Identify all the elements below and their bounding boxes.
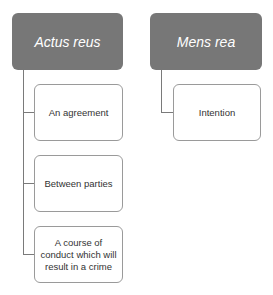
connector-an-agreement bbox=[23, 112, 34, 113]
node-course-of-conduct: A course of conduct which will result in… bbox=[34, 226, 123, 283]
node-an-agreement: An agreement bbox=[34, 84, 123, 141]
node-between-parties-label: Between parties bbox=[44, 178, 112, 190]
node-an-agreement-label: An agreement bbox=[49, 107, 109, 119]
node-intention-label: Intention bbox=[199, 107, 235, 119]
connector-between-parties bbox=[23, 183, 34, 184]
node-mens-rea-label: Mens rea bbox=[177, 34, 235, 50]
node-course-of-conduct-label: A course of conduct which will result in… bbox=[37, 237, 120, 273]
connector-course-of-conduct bbox=[23, 254, 34, 255]
node-between-parties: Between parties bbox=[34, 155, 123, 212]
connector-actus-reus-vertical bbox=[23, 70, 24, 255]
connector-intention bbox=[161, 112, 173, 113]
node-actus-reus-label: Actus reus bbox=[34, 34, 100, 50]
node-intention: Intention bbox=[173, 84, 261, 141]
connector-mens-rea-vertical bbox=[161, 70, 162, 113]
node-mens-rea: Mens rea bbox=[150, 13, 262, 70]
node-actus-reus: Actus reus bbox=[12, 13, 123, 70]
